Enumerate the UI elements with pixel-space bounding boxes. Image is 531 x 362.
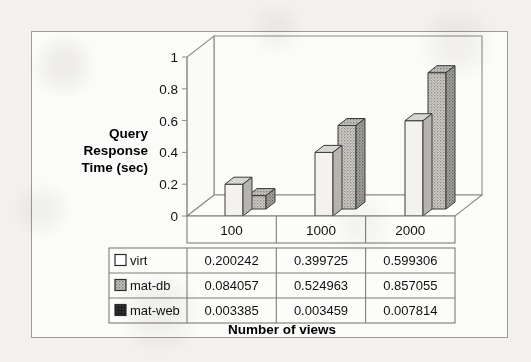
cell-virt-100: 0.200242 xyxy=(204,253,258,268)
bar-virt-100 xyxy=(225,177,252,216)
y-axis-title-line-3: Time (sec) xyxy=(81,160,148,175)
chart-outer-frame: 1 0.8 0.6 0.4 0.2 0 Query Response Time … xyxy=(31,31,508,338)
y-tick-label-02: 0.2 xyxy=(159,177,178,192)
chart-plot-stage: 1 0.8 0.6 0.4 0.2 0 Query Response Time … xyxy=(32,32,507,337)
cell-virt-1000: 0.399725 xyxy=(294,253,348,268)
cell-mat-db-100: 0.084057 xyxy=(204,278,258,293)
legend-swatch-mat-db xyxy=(115,280,126,291)
y-tick-label-08: 0.8 xyxy=(159,82,178,97)
bar-front xyxy=(315,152,333,216)
plot-left-wall xyxy=(187,36,214,216)
legend-label-mat-web: mat-web xyxy=(130,303,180,318)
y-axis-title: Query Response Time (sec) xyxy=(81,126,148,175)
x-axis-title: Number of views xyxy=(228,322,336,337)
legend-swatch-virt xyxy=(115,255,126,266)
bar-virt-2000 xyxy=(405,114,432,216)
legend-label-virt: virt xyxy=(130,253,148,268)
cell-mat-web-2000: 0.007814 xyxy=(383,303,437,318)
legend-label-mat-db: mat-db xyxy=(130,278,170,293)
cell-mat-db-2000: 0.857055 xyxy=(383,278,437,293)
cell-mat-web-1000: 0.003459 xyxy=(294,303,348,318)
data-table: virt 0.200242 0.399725 0.599306 mat-db 0… xyxy=(109,248,455,323)
bar-side xyxy=(446,66,455,209)
x-category-label-100: 100 xyxy=(220,223,243,238)
x-category-label-2000: 2000 xyxy=(395,223,425,238)
cell-mat-db-1000: 0.524963 xyxy=(294,278,348,293)
bar-front xyxy=(405,121,423,216)
cell-mat-web-100: 0.003385 xyxy=(204,303,258,318)
bar-side xyxy=(243,177,252,216)
bar-side xyxy=(333,145,342,216)
y-tick-label-04: 0.4 xyxy=(159,145,178,160)
y-tick-label-1: 1 xyxy=(170,50,178,65)
legend-swatch-mat-web xyxy=(115,305,126,316)
x-category-label-1000: 1000 xyxy=(306,223,336,238)
bar-side xyxy=(423,114,432,216)
category-header-row: 100 1000 2000 xyxy=(187,216,455,243)
y-tick-label-0: 0 xyxy=(170,209,178,224)
query-response-time-chart: 1 0.8 0.6 0.4 0.2 0 Query Response Time … xyxy=(32,32,509,339)
y-tick-label-06: 0.6 xyxy=(159,114,178,129)
y-axis-title-line-1: Query xyxy=(109,126,149,141)
cell-virt-2000: 0.599306 xyxy=(383,253,437,268)
bar-front xyxy=(225,184,243,216)
y-axis-title-line-2: Response xyxy=(83,143,148,158)
bar-side xyxy=(356,119,365,210)
y-axis-ticks: 1 0.8 0.6 0.4 0.2 0 xyxy=(159,50,187,224)
bar-virt-1000 xyxy=(315,145,342,216)
